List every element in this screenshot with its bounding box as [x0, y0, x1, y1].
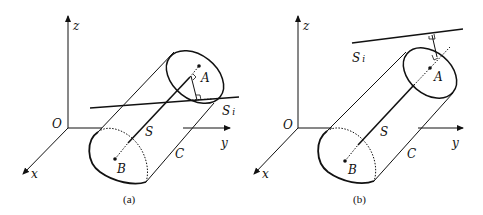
cylinder-c-label: C	[407, 147, 416, 161]
point-a-dot	[197, 64, 201, 68]
perpendicular-segment	[191, 76, 197, 100]
axis-s-label: S	[145, 125, 153, 139]
cylinder-c-label: C	[175, 147, 184, 161]
axis-s-dotted-bottom	[115, 143, 128, 159]
point-b-label: B	[116, 162, 126, 176]
line-si-label-main: S	[352, 51, 360, 65]
line-si-label: Si	[352, 51, 365, 65]
line-si-label-sub: i	[362, 54, 365, 64]
cylinder-side-upper	[327, 52, 406, 131]
point-b-dot	[343, 159, 347, 163]
line-si-segment	[90, 97, 239, 108]
cylinder-top-ellipse	[394, 38, 467, 109]
panel-a-caption: (a)	[123, 193, 136, 206]
axis-s-label: S	[380, 125, 388, 139]
line-si-label-sub: i	[232, 107, 235, 117]
z-axis-label: z	[72, 19, 80, 33]
cylinder-side-upper	[98, 52, 174, 132]
cylinder-bottom-front-arc	[318, 131, 374, 183]
point-b-label: B	[347, 163, 357, 177]
cylinder	[89, 40, 234, 184]
z-axis-label: z	[302, 19, 310, 33]
line-si-segment	[352, 29, 463, 43]
y-axis-label: y	[220, 136, 228, 150]
point-a-dot	[428, 66, 432, 70]
x-axis	[254, 128, 298, 174]
line-si-label-main: S	[222, 104, 230, 118]
point-a-label: A	[433, 70, 443, 84]
figure-canvas: z O y x A B S C Si (a)	[0, 0, 483, 215]
axis-s-dotted-top	[414, 47, 450, 85]
x-axis-label: x	[262, 167, 269, 181]
line-si-label: Si	[222, 104, 235, 118]
x-axis	[23, 128, 68, 174]
line-si	[90, 74, 239, 108]
cylinder	[318, 38, 466, 184]
right-angle-mark-axis	[193, 74, 196, 80]
cylinder-side-lower	[146, 103, 214, 182]
point-b-dot	[113, 157, 117, 161]
axis-s-dotted-bottom	[345, 145, 358, 161]
y-axis-label: y	[451, 136, 459, 150]
axis-s-solid	[128, 77, 190, 143]
x-axis-label: x	[31, 167, 38, 181]
panel-b-caption: (b)	[353, 193, 366, 206]
point-a-label: A	[200, 71, 210, 85]
coordinate-axes	[254, 16, 463, 174]
origin-label: O	[283, 118, 293, 132]
panel-a: z O y x A B S C Si (a)	[23, 16, 239, 206]
line-si	[352, 29, 463, 60]
origin-label: O	[52, 117, 62, 131]
panel-b: z O y x A B S C Si (b)	[254, 16, 466, 206]
